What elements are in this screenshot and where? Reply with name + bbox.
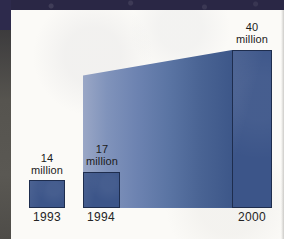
- x-axis-label-2000: 2000: [222, 211, 282, 224]
- scan-border-right-shadow: [281, 10, 284, 239]
- scan-border-top: [0, 0, 284, 10]
- chart-canvas: 14 million 17 million 40 million 1993 19…: [11, 10, 284, 239]
- value-unit-1993: million: [17, 165, 77, 177]
- bar-1993[interactable]: [29, 180, 65, 208]
- bar-1994[interactable]: [83, 172, 120, 208]
- x-axis-label-1994: 1994: [71, 211, 131, 224]
- value-unit-2000: million: [222, 34, 282, 46]
- scan-border-left: [0, 26, 11, 239]
- value-unit-1994: million: [72, 156, 132, 168]
- bar-2000[interactable]: [232, 50, 272, 208]
- value-number-2000: 40: [222, 22, 282, 34]
- value-label-2000: 40 million: [222, 22, 282, 45]
- value-number-1994: 17: [72, 144, 132, 156]
- bar-chart-plot-area: 14 million 17 million 40 million 1993 19…: [11, 10, 284, 239]
- chart-screenshot: 14 million 17 million 40 million 1993 19…: [0, 0, 284, 239]
- value-number-1993: 14: [17, 153, 77, 165]
- scan-border-corner: [0, 0, 11, 30]
- x-axis-label-1993: 1993: [17, 211, 77, 224]
- value-label-1994: 17 million: [72, 144, 132, 167]
- value-label-1993: 14 million: [17, 153, 77, 176]
